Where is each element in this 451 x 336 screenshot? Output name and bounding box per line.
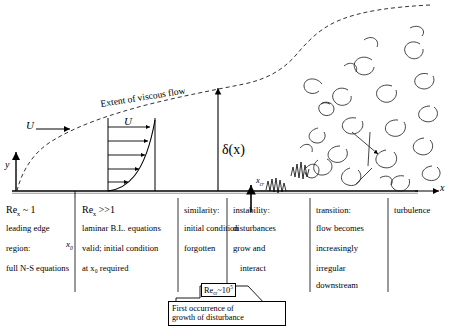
column-line-transition-1: flow becomes [316,224,364,233]
critical-x-label: xcr [256,176,264,187]
column-heading-leading-edge: Rex ~ 1 [6,204,36,217]
column-line-instability-3: interact [240,264,266,273]
boundary-layer-thickness-label: δ(x) [222,143,245,157]
first-occurrence-callout: First occurrence of growth of disturbanc… [168,301,286,326]
column-line-leading-edge-2: region: [6,244,30,253]
column-heading-transition: transition: [316,205,351,215]
column-heading-similarity: similarity: [184,205,219,215]
column-line-laminar-3: at x₀ required [82,264,128,273]
column-line-laminar-2: valid; initial condition [82,244,158,253]
column-line-transition-2: increasingly [316,244,358,253]
freestream-label: U [26,120,34,131]
column-line-laminar-1: laminar B.L. equations [82,224,161,233]
column-line-leading-edge-1: leading edge [6,224,50,233]
turbulent-eddy-scribbles [300,26,440,191]
callout-line-2: growth of disturbance [172,313,282,322]
column-line-instability-1: disturbances [233,224,276,233]
plate-wall [12,191,418,193]
column-heading-instability: instability: [233,205,270,215]
column-line-similarity-2: forgotten [184,244,215,253]
instability-wave-packets [266,162,309,193]
column-line-similarity-1: initial condition [184,224,239,233]
column-line-instability-2: grow and [233,244,265,253]
boundary-layer-transition-diagram: y x U U δ(x) Extent of viscous flow xcr … [0,0,451,336]
column-line-transition-3: irregular [316,264,346,273]
critical-reynolds-tag: Recr~105 [201,283,236,297]
profile-velocity-label: U [124,116,132,127]
column-heading-turbulence: turbulence [394,205,430,215]
callout-line-1: First occurrence of [172,304,282,313]
station-x0-label: x0 [66,240,73,251]
y-axis-label: y [5,160,9,170]
column-heading-laminar: Rex >>1 [82,204,115,217]
x-axis-label: x [440,183,444,193]
column-line-transition-4: downstream [316,281,358,290]
column-line-leading-edge-3: full N-S equations [6,264,69,273]
velocity-profile [108,118,155,191]
